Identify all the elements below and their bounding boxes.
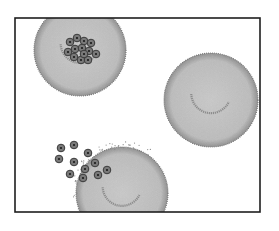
merozoite [57,144,65,152]
merozoite [84,149,92,157]
merozoite [80,50,88,58]
diagram-canvas [0,0,279,231]
merozoite [70,158,78,166]
merozoite [94,171,102,179]
merozoite [66,38,74,46]
merozoite [91,159,99,167]
rupturing-cell [76,147,168,231]
merozoite [80,37,88,45]
merozoite [73,34,81,42]
merozoite [79,174,87,182]
merozoite [92,50,100,58]
merozoite [70,53,78,61]
merozoite [81,165,89,173]
uninfected-cell [164,53,258,147]
merozoite [70,141,78,149]
merozoite [66,170,74,178]
merozoite [87,39,95,47]
merozoite [71,45,79,53]
cells-layer [34,4,258,231]
merozoite [103,166,111,174]
merozoite [55,155,63,163]
